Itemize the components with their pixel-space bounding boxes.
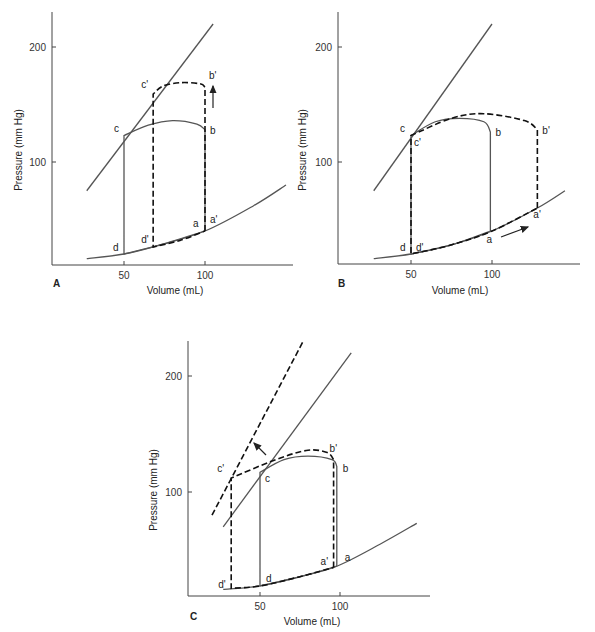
y-tick-label: 100: [29, 157, 46, 168]
point-label-d: d: [113, 242, 119, 253]
point-label-b: b: [495, 127, 501, 138]
point-label-a: a: [486, 234, 492, 245]
point-label-c-prime: c': [141, 79, 148, 90]
point-label-b-prime: b': [330, 443, 338, 454]
panel-letter: C: [190, 611, 197, 622]
espvr-curve: [223, 353, 351, 527]
espvr-increased-contractility-curve: [212, 341, 303, 515]
panel-c: 50100100200aa'bb'cc'dd'CVolume (mL)Press…: [148, 341, 430, 627]
espvr-curve: [87, 24, 213, 191]
preload-arrow-icon: [501, 227, 528, 237]
y-tick-label: 100: [165, 487, 182, 498]
x-tick-label: 50: [254, 601, 266, 612]
point-label-c: c: [265, 473, 270, 484]
point-label-a-prime: a': [210, 214, 218, 225]
point-label-b-prime: b': [209, 70, 217, 81]
point-label-a-prime: a': [321, 556, 329, 567]
x-axis-label: Volume (mL): [284, 616, 341, 627]
y-axis-label: Pressure (mm Hg): [13, 109, 24, 191]
y-tick-label: 200: [315, 42, 332, 53]
point-label-a: a: [193, 218, 199, 229]
x-tick-label: 50: [405, 269, 417, 280]
x-axis-label: Volume (mL): [432, 285, 489, 296]
y-tick-label: 200: [29, 42, 46, 53]
increased-preload-loop-a-b-c-d-curve: [411, 114, 537, 254]
panel-b: 50100100200aa'bb'cc'dd'BVolume (mL)Press…: [297, 12, 580, 296]
point-label-c-prime: c': [217, 463, 224, 474]
point-label-c: c: [400, 123, 405, 134]
x-tick-label: 50: [118, 270, 130, 281]
panel-letter: B: [338, 278, 345, 289]
y-axis-label: Pressure (mm Hg): [297, 109, 308, 191]
point-label-a: a: [345, 552, 351, 563]
panel-a: 50100100200aa'bb'cc'dd'AVolume (mL)Press…: [13, 12, 293, 296]
point-label-c: c: [114, 123, 119, 134]
point-label-b: b: [210, 125, 216, 136]
y-tick-label: 200: [165, 371, 182, 382]
point-label-b: b: [343, 463, 349, 474]
panel-letter: A: [53, 278, 60, 289]
x-tick-label: 100: [197, 270, 214, 281]
control-loop-a-b-c-d-curve: [411, 118, 490, 254]
point-label-d-prime: d': [416, 242, 424, 253]
point-label-b-prime: b': [542, 125, 550, 136]
pressure-volume-figure: 50100100200aa'bb'cc'dd'AVolume (mL)Press…: [0, 0, 595, 632]
control-loop-a-b-c-d-curve: [124, 121, 205, 254]
contractility-arrow-icon: [254, 443, 266, 455]
point-label-d-prime: d': [218, 579, 226, 590]
point-label-d: d: [266, 573, 272, 584]
espvr-curve: [374, 24, 492, 191]
point-label-d-prime: d': [141, 234, 149, 245]
point-label-c-prime: c': [414, 137, 421, 148]
x-tick-label: 100: [332, 601, 349, 612]
y-axis-label: Pressure (mm Hg): [148, 449, 159, 531]
point-label-a-prime: a': [533, 209, 541, 220]
increased-contractility-loop-a-b-c-d-curve: [231, 450, 333, 588]
x-axis-label: Volume (mL): [147, 285, 204, 296]
point-label-d: d: [400, 242, 406, 253]
x-tick-label: 100: [484, 269, 501, 280]
y-tick-label: 100: [315, 157, 332, 168]
